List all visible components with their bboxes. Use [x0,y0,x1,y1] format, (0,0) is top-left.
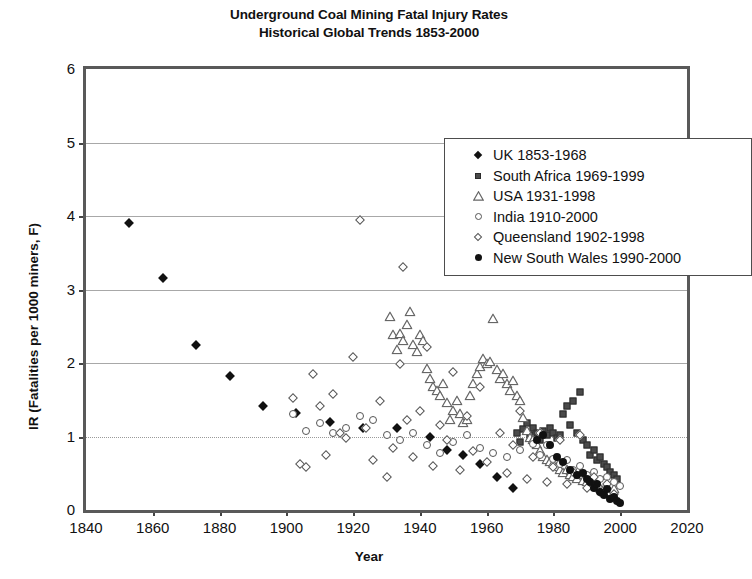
data-point [387,477,394,484]
data-point [263,406,270,413]
x-tick-label-2000: 2000 [590,519,650,536]
data-point [401,319,412,329]
data-point [500,433,507,440]
gridline-y-2 [86,363,687,364]
data-point [463,455,470,462]
x-tick-label-1920: 1920 [323,519,383,536]
data-point [413,433,421,441]
data-point [620,503,628,511]
circle-filled-icon [469,254,487,261]
chart-title-block: Underground Coal Mining Fatal Injury Rat… [0,6,738,42]
data-point [620,486,628,494]
x-tick-label-1940: 1940 [390,519,450,536]
data-point [407,420,414,427]
x-tick-label-1860: 1860 [123,519,183,536]
data-point [353,357,360,364]
x-axis-title: Year [0,549,738,564]
chart-subtitle: Historical Global Trends 1853-2000 [0,24,738,42]
data-point [163,278,170,285]
data-point [333,394,340,401]
y-tick-label-5: 5 [49,134,75,151]
data-point [413,457,420,464]
data-point [380,401,387,408]
data-point [393,448,400,455]
legend-item-4[interactable]: Queensland 1902-1998 [469,227,743,248]
data-point [520,411,527,418]
data-point [306,467,313,474]
legend-item-3[interactable]: India 1910-2000 [469,207,743,228]
data-point [473,451,480,458]
data-point [373,460,380,467]
legend-item-0[interactable]: UK 1853-1968 [469,145,743,166]
data-point [397,428,404,435]
data-point [480,448,488,456]
data-point [563,414,570,421]
data-point [567,484,574,491]
data-point [453,442,461,450]
x-tick-label-1900: 1900 [256,519,316,536]
data-point [580,435,587,442]
data-point [553,467,560,474]
data-point [464,391,475,401]
data-point [508,376,519,386]
circle-open-icon [469,213,487,220]
legend-item-2[interactable]: USA 1931-1998 [469,186,743,207]
data-point [533,457,540,464]
triangle-open-icon [469,191,487,201]
data-point [493,453,501,461]
data-point [129,223,136,230]
legend-item-label: South Africa 1969-1999 [493,168,645,184]
data-point [421,363,432,373]
y-tick-label-0: 0 [49,501,75,518]
data-point [384,312,395,322]
data-point [507,473,514,480]
diamond-open-icon [469,234,487,240]
legend-item-label: Queensland 1902-1998 [493,229,645,245]
data-point [330,422,337,429]
legend-item-5[interactable]: New South Wales 1990-2000 [469,248,743,269]
data-point [507,457,515,465]
data-point [467,435,475,443]
data-point [320,423,328,431]
data-point [320,406,327,413]
data-point [573,401,580,408]
y-tick-label-2: 2 [49,354,75,371]
square-filled-icon [469,173,487,179]
data-point [346,438,353,445]
data-point [513,445,520,452]
data-point [547,482,554,489]
data-point [427,445,435,453]
data-point [404,306,415,316]
page-title: Underground Coal Mining Fatal Injury Rat… [0,6,738,24]
data-point [527,479,534,486]
data-point [540,455,548,463]
plot-area: UK 1853-1968South Africa 1969-1999USA 19… [83,66,690,513]
y-tick-label-1: 1 [49,428,75,445]
data-point [403,267,410,274]
data-point [487,462,494,469]
data-point [293,414,301,422]
legend-item-1[interactable]: South Africa 1969-1999 [469,166,743,187]
data-point [488,313,499,323]
data-point [497,477,504,484]
x-tick-label-2020: 2020 [657,519,717,536]
data-point [433,466,440,473]
data-point [460,470,467,477]
data-point [438,378,449,388]
y-tick-label-6: 6 [49,60,75,77]
legend-item-label: USA 1931-1998 [493,188,595,204]
data-point [427,347,434,354]
data-point [387,435,395,443]
gridline-y-3 [86,290,687,291]
legend-item-label: India 1910-2000 [493,209,598,225]
data-point [313,374,320,381]
data-point [515,396,526,406]
data-point [360,220,367,227]
data-point [391,344,402,354]
data-point [293,398,300,405]
legend-item-label: UK 1853-1968 [493,147,587,163]
data-point [420,411,427,418]
data-point [560,440,567,447]
data-point [451,396,462,406]
